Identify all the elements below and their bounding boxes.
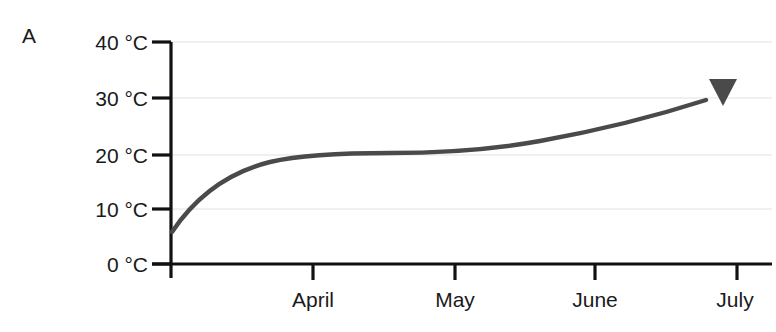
x-axis-label-april: April [292,288,334,311]
chart-figure: A 40 °C 30 °C 20 [0,0,776,332]
y-axis-label-40c: 40 °C [95,31,148,54]
y-axis-label-30c: 30 °C [95,87,148,110]
y-axis-label-0c: 0 °C [107,253,148,276]
x-axis-label-july: July [716,288,754,311]
curve-arrowhead-icon [709,79,737,106]
y-axis-label-20c: 20 °C [95,144,148,167]
x-axis-label-may: May [435,288,475,311]
x-axis-label-june: June [572,288,618,311]
temperature-curve [172,100,706,232]
gridlines [171,42,772,209]
temperature-line-chart: 40 °C 30 °C 20 °C 10 °C 0 °C April May J… [0,0,776,332]
y-axis-label-10c: 10 °C [95,198,148,221]
x-axis-ticks [313,264,737,280]
y-axis-ticks [152,42,171,264]
